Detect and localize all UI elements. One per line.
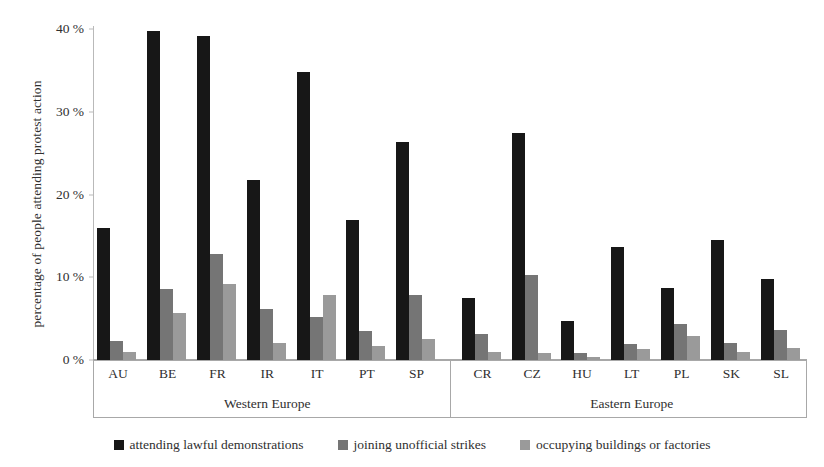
- bar: [396, 142, 409, 360]
- bar: [247, 180, 260, 360]
- bar: [561, 321, 574, 360]
- bar: [147, 31, 160, 360]
- category-axis-label: SK: [723, 366, 740, 382]
- legend-item: occupying buildings or factories: [520, 437, 710, 453]
- category-axis-label: PL: [674, 366, 690, 382]
- category-axis-label: SL: [773, 366, 789, 382]
- bar: [574, 353, 587, 360]
- bar-group: [247, 28, 286, 360]
- legend-item: joining unofficial strikes: [338, 437, 486, 453]
- legend-item: attending lawful demonstrations: [114, 437, 304, 453]
- bar: [422, 339, 435, 361]
- bar: [512, 133, 525, 360]
- region-group-label: Eastern Europe: [590, 396, 673, 412]
- y-axis-tick-mark: [89, 194, 93, 195]
- bar-group: [97, 28, 136, 360]
- y-axis-tick-label: 0 %: [63, 352, 84, 368]
- bar: [97, 228, 110, 360]
- legend-item-label: attending lawful demonstrations: [130, 437, 304, 453]
- y-axis-label: percentage of people attending protest a…: [29, 39, 45, 369]
- bar: [372, 346, 385, 360]
- bar-group: [147, 28, 186, 360]
- bar-group: [396, 28, 435, 360]
- region-divider: [450, 361, 451, 418]
- category-axis-label: SP: [409, 366, 424, 382]
- bar: [488, 352, 501, 360]
- bar: [310, 317, 323, 360]
- region-group-label: Western Europe: [224, 396, 310, 412]
- category-axis-label: HU: [572, 366, 592, 382]
- bar-group: [611, 28, 650, 360]
- bar-group: [462, 28, 501, 360]
- y-axis-tick-mark: [89, 29, 93, 30]
- category-axis-label: BE: [159, 366, 176, 382]
- legend-swatch-strikes: [338, 440, 348, 450]
- bar: [197, 36, 210, 360]
- bar: [409, 295, 422, 360]
- bar-group: [346, 28, 385, 360]
- bar: [273, 343, 286, 360]
- bar: [462, 298, 475, 360]
- category-axis-label: PT: [359, 366, 375, 382]
- category-axis-label: FR: [209, 366, 226, 382]
- bar: [787, 348, 800, 360]
- bar: [587, 357, 600, 360]
- bar-group: [711, 28, 750, 360]
- bar: [110, 341, 123, 360]
- legend-swatch-occupying: [520, 440, 530, 450]
- y-axis-tick-label: 20 %: [56, 187, 84, 203]
- bar-chart: percentage of people attending protest a…: [0, 0, 824, 467]
- bar: [297, 72, 310, 360]
- bar: [223, 284, 236, 360]
- category-axis-label: LT: [624, 366, 639, 382]
- category-axis-label: IR: [261, 366, 275, 382]
- bar: [637, 349, 650, 360]
- bar-group: [661, 28, 700, 360]
- y-axis-tick-mark: [89, 277, 93, 278]
- bar: [711, 240, 724, 360]
- legend-item-label: joining unofficial strikes: [354, 437, 486, 453]
- bar-group: [761, 28, 800, 360]
- bar: [359, 331, 372, 360]
- bar: [661, 288, 674, 360]
- plot-area: 0 %10 %20 %30 %40 %: [93, 28, 806, 360]
- bar-group: [561, 28, 600, 360]
- chart-legend: attending lawful demonstrationsjoining u…: [0, 437, 824, 453]
- bar: [210, 254, 223, 360]
- bar: [323, 295, 336, 360]
- y-axis-tick-mark: [89, 111, 93, 112]
- bar: [173, 313, 186, 360]
- category-axis-label: IT: [311, 366, 324, 382]
- bar: [538, 353, 551, 360]
- category-axis-label: AU: [108, 366, 128, 382]
- bar: [346, 220, 359, 360]
- bar: [687, 336, 700, 360]
- legend-swatch-demonstrations: [114, 440, 124, 450]
- bar: [160, 289, 173, 360]
- bar: [737, 352, 750, 360]
- bar: [674, 324, 687, 360]
- y-axis-tick-label: 30 %: [56, 104, 84, 120]
- bar: [761, 279, 774, 360]
- bar: [260, 309, 273, 360]
- bar: [123, 352, 136, 360]
- bar-group: [297, 28, 336, 360]
- bar-group: [512, 28, 551, 360]
- category-axis-label: CZ: [524, 366, 541, 382]
- bar: [611, 247, 624, 360]
- bar: [525, 275, 538, 360]
- bar: [624, 344, 637, 360]
- bar: [774, 330, 787, 360]
- y-axis-tick-label: 10 %: [56, 269, 84, 285]
- bar: [475, 334, 488, 360]
- bar: [724, 343, 737, 360]
- bar-group: [197, 28, 236, 360]
- category-axis-label: CR: [473, 366, 491, 382]
- y-axis-tick-label: 40 %: [56, 21, 84, 37]
- legend-item-label: occupying buildings or factories: [536, 437, 710, 453]
